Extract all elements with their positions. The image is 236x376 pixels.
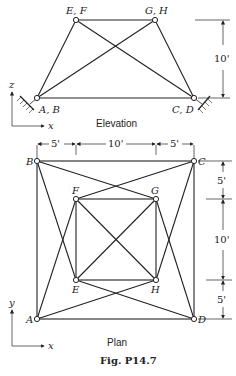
member-a-e	[37, 20, 76, 98]
top-dim-3: 5'	[170, 138, 179, 149]
truss-diagram: A, B C, D E, F G, H 10' z x Elevation 5'…	[0, 0, 236, 376]
member-a-h	[37, 20, 155, 98]
node-b	[34, 158, 39, 163]
x-axis-label-plan: x	[48, 340, 54, 351]
z-axis-label: z	[8, 79, 15, 90]
x-axis-label-elev: x	[48, 120, 54, 131]
label-b: B	[25, 156, 33, 167]
height-dim-label: 10'	[214, 53, 229, 64]
y-axis-label: y	[8, 297, 15, 308]
member-a-h	[37, 280, 156, 319]
elevation-caption: Elevation	[96, 118, 137, 129]
plan-caption: Plan	[107, 337, 127, 348]
label-h: H	[150, 284, 160, 295]
member-b-g	[37, 161, 156, 199]
label-d: D	[197, 314, 206, 325]
node-gh	[152, 17, 157, 22]
label-e: E	[71, 284, 80, 295]
member-d-e	[76, 280, 194, 319]
node-c	[191, 158, 196, 163]
figure-label: Fig. P14.7	[100, 355, 157, 366]
member-a-f	[37, 199, 76, 319]
label-cd: C, D	[172, 104, 194, 115]
label-f: F	[71, 185, 80, 196]
label-ef: E, F	[65, 5, 88, 16]
node-d	[191, 316, 196, 321]
elevation-view: A, B C, D E, F G, H 10' z x Elevation	[8, 5, 230, 131]
node-e	[73, 277, 78, 282]
node-f	[73, 196, 78, 201]
label-g: G	[151, 185, 159, 196]
member-c-h	[156, 161, 194, 280]
node-ab	[34, 95, 39, 100]
label-gh: G, H	[145, 5, 168, 16]
side-dim-1: 5'	[217, 175, 226, 186]
member-c-f	[76, 161, 194, 199]
label-c: C	[198, 156, 206, 167]
node-g	[153, 196, 158, 201]
member-e-d	[76, 20, 194, 98]
node-cd	[191, 95, 196, 100]
side-dim-2: 10'	[214, 234, 229, 245]
node-h	[153, 277, 158, 282]
member-d-h	[155, 20, 194, 98]
label-a: A	[25, 314, 33, 325]
label-ab: A, B	[38, 104, 60, 115]
member-b-e	[37, 161, 76, 280]
node-ef	[73, 17, 78, 22]
member-d-g	[156, 199, 194, 319]
plan-view: 5' 10' 5' B C A D F G E H	[8, 138, 232, 351]
top-dim-2: 10'	[108, 138, 123, 149]
side-dim-3: 5'	[217, 294, 226, 305]
top-dim-1: 5'	[51, 138, 60, 149]
node-a	[34, 316, 39, 321]
